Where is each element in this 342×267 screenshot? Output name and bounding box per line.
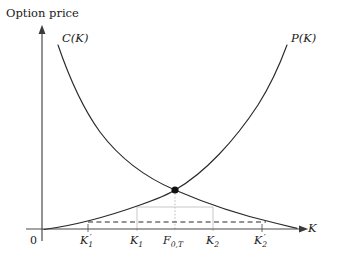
tick-label-sub: 1: [138, 240, 143, 249]
tick-label-f0t: F0,T: [163, 235, 183, 246]
tick-label-sub: 2: [214, 240, 219, 249]
y-axis-title: Option price: [6, 8, 79, 20]
x-axis-title: K: [308, 223, 317, 235]
put-price-curve: [44, 45, 287, 230]
option-price-diagram: Option price C(K) P(K) K 0 K1′ K1 F0,T K…: [0, 0, 342, 267]
tick-label-base: K: [130, 234, 138, 247]
tick-label-sub: 0,T: [171, 240, 183, 249]
tick-label-base: K: [206, 234, 214, 247]
tick-label-k1: K1: [130, 235, 143, 246]
tick-label-k2: K2: [206, 235, 219, 246]
put-curve-label: P(K): [291, 33, 316, 45]
call-price-curve: [58, 45, 297, 228]
tick-label-base: F: [163, 234, 171, 247]
curve-intersection-point: [171, 186, 178, 193]
tick-label-k1-prime: K1′: [80, 235, 95, 246]
tick-label-prime: ′: [264, 233, 266, 243]
call-curve-label: C(K): [62, 33, 88, 45]
tick-label-base: K: [80, 234, 88, 247]
tick-label-k2-prime: K2′: [254, 235, 269, 246]
tick-label-prime: ′: [90, 233, 92, 243]
tick-label-base: K: [254, 234, 262, 247]
origin-label: 0: [30, 235, 37, 246]
